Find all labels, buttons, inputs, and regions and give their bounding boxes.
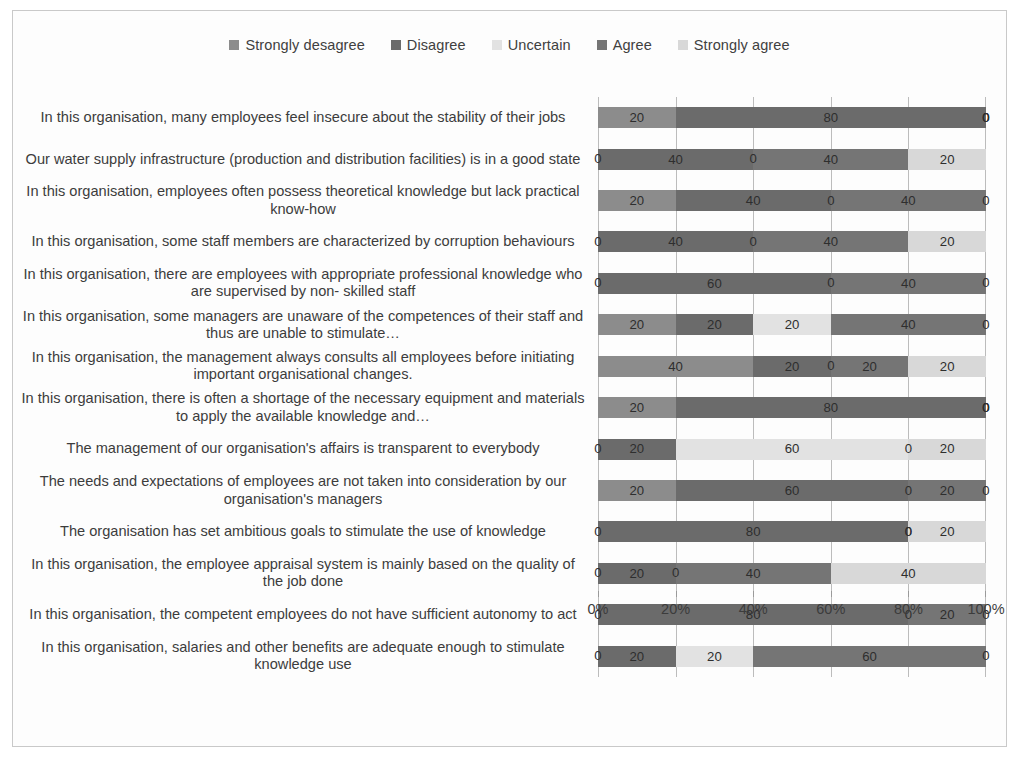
bar-row[interactable]: 6040000 — [598, 263, 986, 304]
bar-track: 202020400 — [598, 314, 986, 335]
bar-segment-value: 0 — [982, 650, 989, 663]
legend-item[interactable]: Strongly agree — [678, 37, 790, 53]
bar-segment[interactable]: 20 — [598, 190, 676, 211]
bar-segment[interactable]: 20 — [598, 480, 676, 501]
bar-segment-value: 40 — [668, 153, 683, 166]
bar-segment[interactable]: 20 — [598, 397, 676, 418]
bar-segment[interactable]: 20 — [908, 439, 986, 460]
bar-segment[interactable]: 40 — [598, 149, 753, 170]
legend-label: Uncertain — [508, 37, 571, 53]
bar-segment-value: 80 — [823, 111, 838, 124]
bar-segment-value: 80 — [823, 401, 838, 414]
bar-segment[interactable]: 40 — [831, 563, 986, 584]
bar-segment-value: 0 — [905, 442, 912, 455]
bar-segment[interactable]: 40 — [753, 231, 908, 252]
bar-segment[interactable]: 40 — [753, 149, 908, 170]
bar-segment[interactable]: 20 — [908, 521, 986, 542]
bar-row[interactable]: 202020400 — [598, 304, 986, 345]
bar-segment-value: 0 — [594, 650, 601, 663]
category-label-text: In this organisation, salaries and other… — [21, 639, 585, 673]
bar-segment[interactable]: 40 — [676, 563, 831, 584]
category-label: In this organisation, the management alw… — [21, 346, 589, 387]
bar-segment-value: 40 — [823, 235, 838, 248]
bar-segment-value: 0 — [750, 153, 757, 166]
bar-segment[interactable]: 20 — [753, 356, 831, 377]
category-label: The organisation has set ambitious goals… — [21, 511, 589, 552]
bar-segment[interactable]: 80 — [598, 521, 908, 542]
bar-segment-value: 60 — [707, 277, 722, 290]
axis-tick — [985, 591, 986, 597]
bar-row[interactable]: 40402000 — [598, 138, 986, 179]
bar-row[interactable]: 20602000 — [598, 470, 986, 511]
bar-segment[interactable]: 20 — [831, 356, 909, 377]
axis-tick-label: 100% — [967, 601, 1004, 617]
bar-track: 2080000 — [598, 397, 986, 418]
bar-track: 40402000 — [598, 149, 986, 170]
category-label: In this organisation, there is often a s… — [21, 387, 589, 428]
bar-segment[interactable]: 60 — [598, 273, 831, 294]
bar-segment[interactable]: 60 — [676, 439, 909, 460]
bar-row[interactable]: 2080000 — [598, 97, 986, 138]
bar-segment-value: 20 — [629, 484, 644, 497]
bar-segment[interactable]: 20 — [676, 314, 754, 335]
bar-row[interactable]: 40402000 — [598, 221, 986, 262]
bar-segment[interactable]: 40 — [598, 231, 753, 252]
bar-row[interactable]: 20404000 — [598, 553, 986, 594]
bar-segment[interactable]: 60 — [753, 646, 986, 667]
bar-row[interactable]: 20206000 — [598, 635, 986, 676]
legend-item[interactable]: Strongly desagree — [229, 37, 364, 53]
category-axis-labels: In this organisation, many employees fee… — [21, 97, 589, 677]
bar-segment[interactable]: 20 — [598, 439, 676, 460]
bar-segment[interactable]: 80 — [676, 107, 986, 128]
category-label-text: In this organisation, some managers are … — [21, 308, 585, 342]
category-label: In this organisation, employees often po… — [21, 180, 589, 221]
bar-segment-value: 40 — [901, 277, 916, 290]
bar-segment[interactable]: 20 — [908, 356, 986, 377]
bar-segment[interactable]: 40 — [831, 190, 986, 211]
bar-segment-value: 40 — [901, 194, 916, 207]
bar-segment[interactable]: 20 — [908, 480, 986, 501]
bar-segment-value: 0 — [750, 235, 757, 248]
legend-swatch-icon — [391, 40, 401, 50]
category-label: In this organisation, salaries and other… — [21, 635, 589, 676]
bar-segment-value: 20 — [862, 360, 877, 373]
legend-swatch-icon — [492, 40, 502, 50]
bar-segment-value: 20 — [940, 484, 955, 497]
bar-segment[interactable]: 40 — [598, 356, 753, 377]
bar-segment[interactable]: 20 — [908, 231, 986, 252]
bar-segment-value: 0 — [827, 194, 834, 207]
bar-row[interactable]: 402020200 — [598, 346, 986, 387]
bar-segment[interactable]: 20 — [908, 149, 986, 170]
bars-area: 2080000404020002040400040402000604000020… — [598, 97, 986, 677]
legend-item[interactable]: Agree — [597, 37, 652, 53]
category-label-text: In this organisation, there are employee… — [21, 266, 585, 300]
bar-segment-value: 0 — [672, 567, 679, 580]
bar-segment-value: 20 — [785, 360, 800, 373]
bar-segment-value: 0 — [982, 401, 989, 414]
bar-segment-value: 0 — [905, 484, 912, 497]
category-label-text: The organisation has set ambitious goals… — [21, 523, 585, 540]
bar-row[interactable]: 20602000 — [598, 428, 986, 469]
bar-row[interactable]: 8020000 — [598, 511, 986, 552]
bar-segment[interactable]: 20 — [598, 646, 676, 667]
bar-segment-value: 40 — [668, 235, 683, 248]
bar-segment[interactable]: 20 — [598, 107, 676, 128]
bar-segment-value: 0 — [827, 360, 834, 373]
bar-segment[interactable]: 80 — [676, 397, 986, 418]
bar-segment-value: 20 — [629, 567, 644, 580]
bar-segment[interactable]: 20 — [753, 314, 831, 335]
bar-segment[interactable]: 40 — [831, 273, 986, 294]
bar-segment-value: 0 — [982, 318, 989, 331]
legend-item[interactable]: Disagree — [391, 37, 466, 53]
bar-row[interactable]: 20404000 — [598, 180, 986, 221]
bar-row[interactable]: 2080000 — [598, 387, 986, 428]
bar-segment[interactable]: 20 — [598, 314, 676, 335]
bar-segment[interactable]: 40 — [676, 190, 831, 211]
category-label-text: In this organisation, employees often po… — [21, 183, 585, 217]
bar-segment[interactable]: 60 — [676, 480, 909, 501]
bar-segment[interactable]: 20 — [598, 563, 676, 584]
bar-segment[interactable]: 20 — [676, 646, 754, 667]
bar-segment-value: 20 — [629, 111, 644, 124]
bar-segment[interactable]: 40 — [831, 314, 986, 335]
legend-item[interactable]: Uncertain — [492, 37, 571, 53]
